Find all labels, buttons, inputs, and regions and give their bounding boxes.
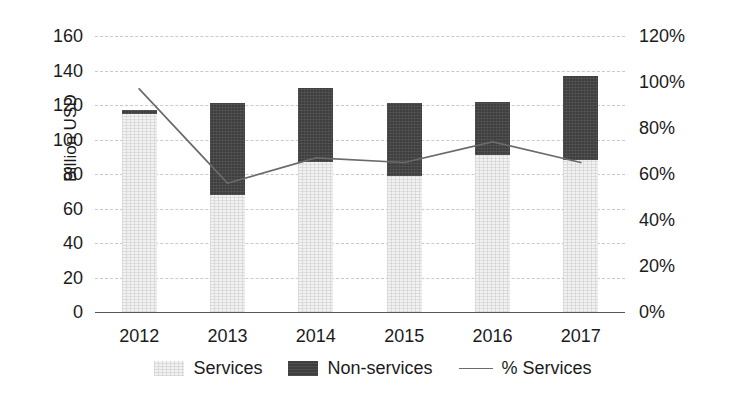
bar-segment-services[interactable] <box>563 160 598 312</box>
y-axis-left-tick-label: 80 <box>0 165 83 183</box>
gridline <box>95 278 625 279</box>
bar-segment-non-services[interactable] <box>210 103 245 194</box>
gridline <box>95 174 625 175</box>
y-axis-left-tick-label: 20 <box>0 269 83 287</box>
bar-segment-services[interactable] <box>122 114 157 312</box>
y-axis-left-tick-label: 140 <box>0 62 83 80</box>
gridline <box>95 243 625 244</box>
legend-item-label: Non-services <box>327 358 432 379</box>
bar-segment-non-services[interactable] <box>563 76 598 161</box>
bar-group[interactable] <box>210 36 245 312</box>
x-axis-tick-label: 2013 <box>183 326 271 347</box>
legend-item-label: % Services <box>502 358 592 379</box>
x-axis-tick-label: 2016 <box>448 326 536 347</box>
chart-container: Billion USD 020406080100120140160 0%20%4… <box>0 0 746 405</box>
y-axis-left-tick-label: 160 <box>0 27 83 45</box>
bar-segment-services[interactable] <box>387 176 422 312</box>
gridline <box>95 209 625 210</box>
legend-item[interactable]: % Services <box>459 358 592 379</box>
legend-item[interactable]: Non-services <box>288 358 432 379</box>
legend-swatch-services-icon <box>154 361 184 376</box>
y-axis-right-tick-label: 80% <box>639 119 675 137</box>
y-axis-right-tick-label: 60% <box>639 165 675 183</box>
bar-segment-services[interactable] <box>475 155 510 312</box>
bar-segment-non-services[interactable] <box>475 102 510 155</box>
legend-item-label: Services <box>193 358 262 379</box>
y-axis-right-tick-label: 120% <box>639 27 685 45</box>
bar-group[interactable] <box>475 36 510 312</box>
y-axis-right-tick-label: 40% <box>639 211 675 229</box>
x-axis-tick-label: 2015 <box>360 326 448 347</box>
y-axis-left-tick-label: 40 <box>0 234 83 252</box>
bar-group[interactable] <box>387 36 422 312</box>
gridline <box>95 140 625 141</box>
legend-item[interactable]: Services <box>154 358 262 379</box>
y-axis-left-tick-label: 0 <box>0 303 83 321</box>
gridline <box>95 36 625 37</box>
gridline <box>95 105 625 106</box>
bar-group[interactable] <box>298 36 333 312</box>
x-axis-tick-label: 2014 <box>272 326 360 347</box>
bar-group[interactable] <box>563 36 598 312</box>
percent-services-line <box>139 89 581 183</box>
x-axis-tick-label: 2017 <box>537 326 625 347</box>
bar-segment-non-services[interactable] <box>298 88 333 162</box>
bar-segment-services[interactable] <box>210 195 245 312</box>
y-axis-right-tick-label: 20% <box>639 257 675 275</box>
y-axis-right-tick-label: 100% <box>639 73 685 91</box>
y-axis-right-tick-label: 0% <box>639 303 665 321</box>
legend-swatch-non-services-icon <box>288 361 318 376</box>
gridline <box>95 71 625 72</box>
bar-segment-non-services[interactable] <box>122 110 157 113</box>
bar-segment-services[interactable] <box>298 162 333 312</box>
plot-area <box>95 36 625 312</box>
chart-legend: ServicesNon-services% Services <box>0 358 746 379</box>
y-axis-left-tick-label: 60 <box>0 200 83 218</box>
bar-group[interactable] <box>122 36 157 312</box>
y-axis-left-tick-label: 120 <box>0 96 83 114</box>
bar-segment-non-services[interactable] <box>387 103 422 175</box>
x-axis-tick-label: 2012 <box>95 326 183 347</box>
legend-line-sample-icon <box>459 368 493 369</box>
x-axis-line <box>95 312 625 313</box>
y-axis-left-tick-label: 100 <box>0 131 83 149</box>
